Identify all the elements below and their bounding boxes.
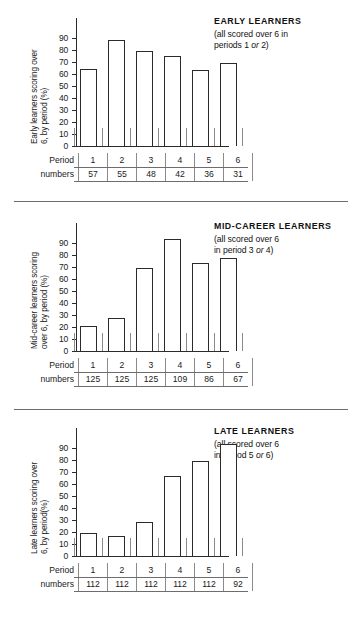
y-tick-0-3 [72, 556, 77, 557]
count-cell-4-1: 42 [166, 167, 195, 181]
y-tick-label-20-2: 20 [59, 323, 68, 332]
bar-3-3 [136, 522, 153, 556]
count-cell-3-2: 125 [137, 372, 166, 386]
subtitle-emphasis-3: or [256, 450, 264, 460]
count-cell-6-2: 67 [224, 372, 253, 386]
table-midrule-2 [74, 372, 248, 373]
period-cell-1-1: 1 [79, 153, 108, 167]
column-tick-3-1 [158, 128, 159, 146]
table-midrule-1 [74, 167, 248, 168]
y-axis-title-1: Early learners scoring over6, by period … [30, 49, 50, 144]
bar-2-1 [108, 40, 125, 146]
period-cell-5-2: 5 [195, 358, 224, 372]
y-tick-label-80-2: 80 [59, 251, 68, 260]
y-tick-label-60-1: 60 [59, 70, 68, 79]
row-label-numbers-2: numbers [18, 372, 79, 386]
bar-4-2 [164, 239, 181, 351]
count-cell-6-1: 31 [224, 167, 253, 181]
table-row[interactable]: numbers1251251251098667 [18, 372, 253, 386]
column-tick-0-3 [74, 538, 75, 556]
subtitle-emphasis-1: or [251, 40, 259, 50]
bar-4-1 [164, 56, 181, 146]
y-tick-label-30-1: 30 [59, 106, 68, 115]
table-row[interactable]: numbers575548423631 [18, 167, 253, 181]
column-tick-4-2 [186, 333, 187, 351]
count-cell-3-1: 48 [137, 167, 166, 181]
y-tick-label-80-3: 80 [59, 456, 68, 465]
y-tick-label-10-3: 10 [59, 540, 68, 549]
count-cell-2-1: 55 [108, 167, 137, 181]
table-tail-1-1 [253, 153, 254, 167]
column-tick-1-2 [102, 333, 103, 351]
table-row[interactable]: numbers11211211211211292 [18, 577, 253, 591]
column-tick-4-1 [186, 128, 187, 146]
column-tick-5-1 [214, 128, 215, 146]
bar-5-2 [192, 263, 209, 351]
y-tick-label-80-1: 80 [59, 46, 68, 55]
y-tick-label-90-1: 90 [59, 34, 68, 43]
period-cell-3-3: 3 [137, 563, 166, 577]
period-cell-2-3: 2 [108, 563, 137, 577]
bar-6-3 [220, 444, 237, 556]
column-tick-2-1 [130, 128, 131, 146]
column-tick-2-2 [130, 333, 131, 351]
count-cell-4-3: 112 [166, 577, 195, 591]
table-row[interactable]: Period123456 [18, 153, 253, 167]
subtitle-emphasis-2: or [256, 245, 264, 255]
y-tick-label-10-1: 10 [59, 130, 68, 139]
row-label-numbers-1: numbers [18, 167, 79, 181]
count-cell-6-3: 92 [224, 577, 253, 591]
period-cell-4-1: 4 [166, 153, 195, 167]
bar-3-2 [136, 268, 153, 351]
y-tick-label-0-3: 0 [63, 552, 68, 561]
y-tick-0-1 [72, 146, 77, 147]
bar-1-1 [80, 69, 97, 146]
period-cell-6-3: 6 [224, 563, 253, 577]
bar-1-3 [80, 533, 97, 556]
y-tick-label-50-1: 50 [59, 82, 68, 91]
count-cell-2-3: 112 [108, 577, 137, 591]
bar-4-3 [164, 476, 181, 556]
y-tick-label-30-2: 30 [59, 311, 68, 320]
bar-5-3 [192, 461, 209, 556]
table-tail-2-2 [253, 372, 254, 386]
column-tick-5-3 [214, 538, 215, 556]
row-label-numbers-3: numbers [18, 577, 79, 591]
table-row[interactable]: Period123456 [18, 358, 253, 372]
y-tick-label-50-2: 50 [59, 287, 68, 296]
bar-1-2 [80, 326, 97, 351]
column-tick-2-3 [130, 538, 131, 556]
bar-2-2 [108, 318, 125, 351]
period-cell-3-2: 3 [137, 358, 166, 372]
bar-5-1 [192, 70, 209, 146]
period-cell-5-1: 5 [195, 153, 224, 167]
count-cell-1-2: 125 [79, 372, 108, 386]
bar-6-1 [220, 63, 237, 146]
count-cell-1-3: 112 [79, 577, 108, 591]
column-tick-4-3 [186, 538, 187, 556]
table-tail-1-3 [253, 563, 254, 577]
y-tick-label-40-2: 40 [59, 299, 68, 308]
table-tail-2-3 [253, 577, 254, 591]
period-cell-1-2: 1 [79, 358, 108, 372]
column-tick-6-1 [242, 128, 243, 146]
panel-divider-2 [14, 409, 348, 410]
y-axis-title-2: Mid-career learners scoringover 6, by pe… [30, 252, 50, 349]
period-cell-6-2: 6 [224, 358, 253, 372]
y-tick-label-40-1: 40 [59, 94, 68, 103]
table-row[interactable]: Period123456 [18, 563, 253, 577]
count-cell-4-2: 109 [166, 372, 195, 386]
column-tick-3-3 [158, 538, 159, 556]
column-tick-0-2 [74, 333, 75, 351]
y-tick-label-60-3: 60 [59, 480, 68, 489]
y-tick-label-90-2: 90 [59, 239, 68, 248]
table-tail-1-2 [253, 358, 254, 372]
y-tick-label-70-1: 70 [59, 58, 68, 67]
row-label-period-3: Period [18, 563, 79, 577]
column-tick-5-2 [214, 333, 215, 351]
y-tick-label-10-2: 10 [59, 335, 68, 344]
period-cell-4-3: 4 [166, 563, 195, 577]
chart-1: Early learners scoring over6, by period … [0, 0, 360, 199]
count-cell-1-1: 57 [79, 167, 108, 181]
column-tick-6-2 [242, 333, 243, 351]
